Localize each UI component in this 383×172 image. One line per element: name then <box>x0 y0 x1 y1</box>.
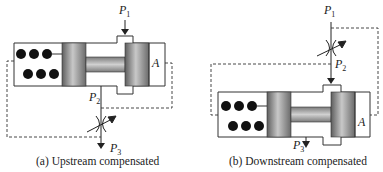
panel-a-upstream-compensated: P1 A P2 P3 <box>7 3 172 168</box>
piston-rod <box>291 107 331 122</box>
right-piston <box>331 92 355 137</box>
right-piston <box>125 43 149 86</box>
p1-label: P1 <box>323 3 335 19</box>
area-label: A <box>357 115 366 129</box>
left-piston <box>267 92 291 137</box>
compensated-valve-figure: P1 A P2 P3 <box>0 0 383 172</box>
panel-b-downstream-compensated: P1 P2 A <box>211 3 378 168</box>
p2-label: P2 <box>88 90 100 106</box>
p1-label: P1 <box>118 3 130 19</box>
caption-b: (b) Downstream compensated <box>229 155 367 168</box>
left-piston <box>62 43 86 86</box>
caption-a: (a) Upstream compensated <box>36 155 160 168</box>
p2-label: P2 <box>334 57 346 73</box>
p3-arrow-icon <box>97 143 105 149</box>
p2-arrow-icon <box>327 78 335 84</box>
area-label: A <box>151 56 160 70</box>
piston-rod <box>86 57 125 72</box>
p1-arrow-icon <box>121 29 129 35</box>
p3-label: P3 <box>292 138 304 154</box>
